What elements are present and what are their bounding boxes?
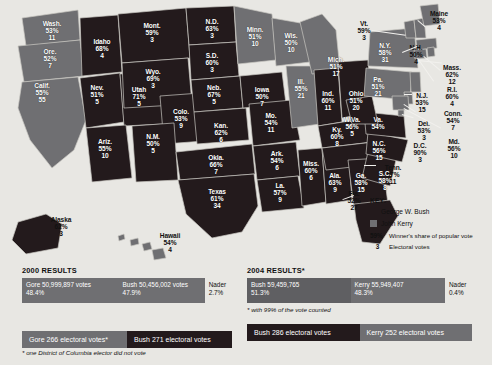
state-label-or: Ore. 52% 7 (30, 48, 70, 70)
state-label-mo: Mo. 54% 11 (256, 112, 286, 134)
popseg-bush-2000-votes: Bush 50,456,002 votes (123, 281, 188, 288)
popular-vote-bar-2000: Gore 50,999,897 votes 48.4% Bush 50,456,… (22, 278, 232, 303)
state-label-il: Ill. 55% 21 (288, 78, 314, 100)
state-label-ca: Calif. 55% 55 (22, 82, 62, 104)
state-ri (427, 47, 435, 57)
state-hi-2 (130, 238, 139, 246)
key-row-kerry: John Kerry (370, 219, 488, 228)
state-label-mn: Minn. 51% 10 (238, 26, 272, 48)
key-sample-pct: 59% (370, 231, 385, 240)
popseg-bush-2004-pct: 51.3% (251, 289, 351, 297)
key-label-kerry: John Kerry (381, 219, 413, 228)
popseg-bush-2000-pct: 47.9% (123, 289, 205, 297)
state-label-ny: N.Y. 58% 31 (372, 42, 398, 64)
results-2004-panel: 2004 RESULTS* Bush 59,459,765 51.3% Kerr… (247, 266, 472, 341)
state-label-me: Maine 53% 4 (424, 10, 454, 32)
state-label-ne: Neb. 67% 5 (198, 84, 230, 106)
bottom-footnote: * one District of Columbia elector did n… (22, 349, 146, 356)
leader-tn (364, 165, 376, 166)
state-label-wv: W.Va. 56% 5 (338, 116, 366, 138)
popseg-gore-2000-votes: Gore 50,999,897 votes (26, 281, 91, 288)
state-label-ok: Okla. 66% 7 (200, 154, 232, 176)
electoral-bar-2000: Gore 266 electoral votes* Bush 271 elect… (22, 331, 232, 348)
state-label-co: Colo. 53% 9 (164, 108, 198, 130)
popseg-kerry-2004-pct: 48.3% (355, 289, 446, 297)
state-label-ct: Conn. 54% 7 (440, 110, 466, 132)
state-label-nc: N.C. 56% 15 (366, 140, 392, 162)
evseg-bush-2004: Bush 286 electoral votes (247, 324, 360, 341)
popular-vote-bar-2004: Bush 59,459,765 51.3% Kerry 55,949,407 4… (247, 278, 472, 303)
state-label-sc: S.C. 58% 8 (372, 170, 398, 192)
state-label-wa: Wash. 53% 11 (30, 20, 74, 42)
popseg-gore-2000: Gore 50,999,897 votes 48.4% (22, 278, 119, 303)
state-md (392, 96, 409, 110)
popseg-nader-2004-pct: 0.4% (449, 289, 472, 297)
results-2004-title: 2004 RESULTS* (247, 266, 472, 275)
state-label-az: Ariz. 55% 10 (88, 138, 122, 160)
state-label-ma: Mass. 62% 12 (438, 64, 466, 86)
state-label-ks: Kan. 62% 6 (206, 122, 236, 144)
state-nj (410, 72, 421, 92)
popseg-bush-2000: Bush 50,456,002 votes 47.9% (119, 278, 205, 303)
state-label-wy: Wyo. 69% 3 (136, 68, 170, 90)
state-hi-1 (118, 234, 125, 241)
state-label-md: Md. 56% 10 (442, 138, 466, 160)
state-hi-3 (142, 242, 152, 251)
state-label-mi: Mich. 51% 17 (320, 56, 352, 78)
popseg-kerry-2004-votes: Kerry 55,949,407 (355, 281, 404, 288)
state-label-wi: Wis. 50% 10 (276, 32, 306, 54)
evseg-bush-2000: Bush 271 electoral votes (127, 331, 232, 348)
map-key: KEY: George W. Bush John Kerry 59% Winne… (370, 196, 488, 251)
bush-color-swatch (370, 208, 377, 215)
key-note-ev: Electoral votes (389, 242, 430, 251)
state-label-la: La. 57% 9 (266, 182, 294, 204)
electoral-bar-2004: Bush 286 electoral votes Kerry 252 elect… (247, 324, 472, 341)
state-label-ar: Ark. 54% 6 (262, 150, 292, 172)
popseg-nader-2000-name: Nader (209, 281, 226, 288)
key-title: KEY: (370, 196, 488, 205)
evseg-kerry-2004: Kerry 252 electoral votes (360, 324, 473, 341)
results-2004-footnote: * with 99% of the vote counted (247, 306, 472, 313)
state-label-hi: Hawaii 54% 4 (152, 232, 188, 254)
leader-nj (404, 94, 412, 95)
state-label-nv: Nev. 51% 5 (80, 84, 114, 106)
state-label-ak: Alaska 62% 3 (42, 216, 80, 238)
key-row-bush: George W. Bush (370, 207, 488, 216)
kerry-color-swatch (370, 220, 377, 227)
evseg-gore-2000: Gore 266 electoral votes* (22, 331, 127, 348)
state-label-nh: N.H. 50% 4 (404, 44, 428, 66)
popseg-nader-2000-pct: 2.7% (209, 289, 232, 297)
state-label-pa: Pa. 51% 21 (366, 76, 390, 98)
key-note-pct: Winner's share of popular vote (389, 231, 473, 240)
key-row-ev: 3 Electoral votes (370, 242, 488, 251)
state-label-fl: Fla. 52% 27 (342, 190, 366, 212)
key-label-bush: George W. Bush (381, 207, 429, 216)
election-map-figure: Wash. 53% 11 Ore. 52% 7 Calif. 55% 55 Ne… (0, 0, 492, 365)
results-2000-panel: 2000 RESULTS Gore 50,999,897 votes 48.4%… (22, 266, 232, 348)
state-label-tx: Texas 61% 34 (200, 188, 234, 210)
popseg-gore-2000-pct: 48.4% (26, 289, 119, 297)
state-label-nd: N.D. 63% 3 (196, 18, 228, 40)
state-label-in: Ind. 60% 11 (314, 90, 342, 112)
state-label-sd: S.D. 60% 3 (196, 52, 228, 74)
state-label-id: Idaho 68% 4 (84, 38, 120, 60)
key-sample-ev: 3 (370, 242, 385, 251)
state-label-ia: Iowa 50% 7 (246, 86, 278, 108)
popseg-kerry-2004: Kerry 55,949,407 48.3% (351, 278, 446, 303)
key-row-pct: 59% Winner's share of popular vote (370, 231, 488, 240)
state-label-nm: N.M. 50% 5 (136, 133, 170, 155)
results-2000-title: 2000 RESULTS (22, 266, 232, 275)
popseg-bush-2004-votes: Bush 59,459,765 (251, 281, 299, 288)
popseg-nader-2004-name: Nader (449, 281, 466, 288)
popseg-nader-2004: Nader 0.4% (445, 278, 472, 303)
state-label-mt: Mont. 59% 3 (134, 22, 170, 44)
popseg-bush-2004: Bush 59,459,765 51.3% (247, 278, 351, 303)
state-label-dc: D.C. 90% 3 (408, 142, 432, 164)
state-label-va: Va. 54% (366, 116, 390, 130)
popseg-nader-2000: Nader 2.7% (205, 278, 232, 303)
state-label-ri: R.I. 60% 4 (440, 86, 464, 108)
